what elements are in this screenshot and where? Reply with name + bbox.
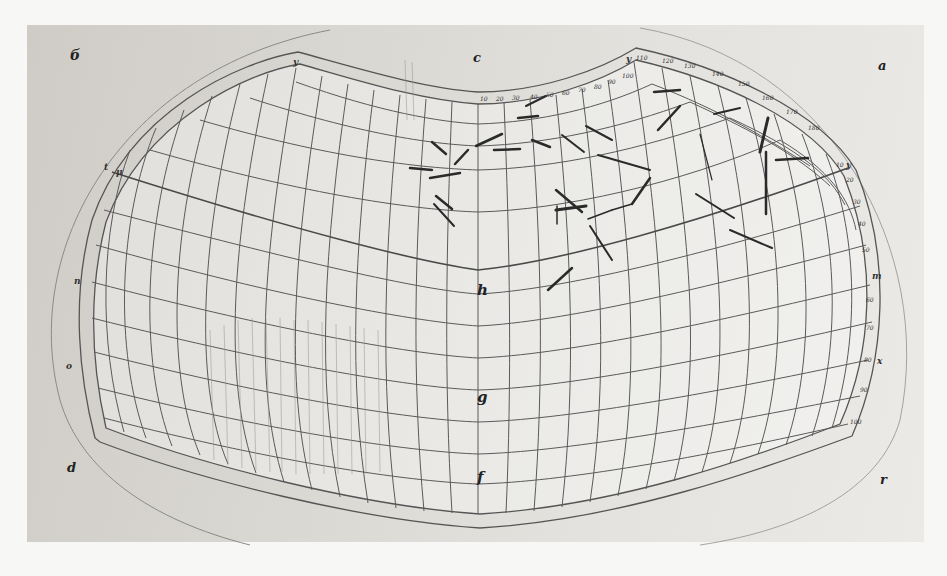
corner-label-top-center: c: [473, 50, 481, 65]
svg-text:30: 30: [853, 198, 861, 205]
frame-label-top-right-vertex: y: [625, 54, 632, 64]
svg-text:120: 120: [662, 57, 674, 64]
svg-text:70: 70: [866, 324, 874, 331]
svg-text:20: 20: [495, 95, 504, 102]
svg-text:50: 50: [862, 246, 870, 253]
svg-text:40: 40: [857, 220, 866, 227]
svg-text:180: 180: [808, 124, 820, 131]
svg-text:60: 60: [562, 89, 570, 96]
frame-label-left-upper-inner: μ: [116, 167, 123, 177]
projection-map: б c a d r h g f y t μ n o y m x y 10 20 …: [0, 0, 947, 576]
frame-label-right-mid: m: [872, 271, 882, 281]
svg-text:110: 110: [636, 54, 648, 61]
corner-label-top-right: a: [878, 58, 886, 73]
frame-label-right-upper: y: [845, 160, 852, 170]
frame-label-right-lower: x: [876, 356, 883, 366]
svg-text:60: 60: [866, 296, 874, 303]
svg-text:10: 10: [836, 161, 844, 168]
svg-text:50: 50: [546, 91, 554, 98]
frame-label-top-left-vertex: y: [292, 57, 299, 67]
svg-text:160: 160: [762, 94, 774, 101]
corner-label-bottom-right: r: [880, 472, 888, 487]
svg-text:100: 100: [622, 72, 634, 79]
svg-text:80: 80: [594, 83, 602, 90]
meridian-label-h: h: [477, 281, 488, 299]
svg-text:140: 140: [712, 70, 724, 77]
svg-text:80: 80: [864, 356, 872, 363]
corner-label-bottom-left: d: [67, 460, 76, 475]
svg-text:10: 10: [480, 95, 488, 102]
corner-label-top-left: б: [70, 47, 80, 63]
svg-text:150: 150: [738, 80, 750, 87]
svg-text:170: 170: [786, 108, 798, 115]
svg-text:130: 130: [684, 62, 696, 69]
svg-text:40: 40: [529, 93, 538, 100]
svg-text:70: 70: [578, 86, 586, 93]
frame-label-left-lower: o: [66, 361, 72, 371]
svg-text:90: 90: [608, 78, 616, 85]
frame-label-left-mid: n: [74, 276, 81, 286]
svg-text:30: 30: [512, 94, 520, 101]
svg-text:90: 90: [860, 386, 868, 393]
svg-text:100: 100: [850, 418, 862, 425]
svg-text:20: 20: [845, 176, 854, 183]
meridian-label-g: g: [477, 388, 488, 406]
